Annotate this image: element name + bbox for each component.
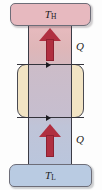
cold-reservoir: TL — [9, 164, 92, 187]
upper-arrow-shaft — [46, 39, 54, 61]
lower-heat-label: Q — [76, 134, 84, 145]
cold-reservoir-label: TL — [45, 170, 56, 182]
hot-reservoir: TH — [10, 3, 91, 26]
cold-reservoir-subscript: L — [51, 173, 56, 182]
flow-direction-triangle-top-icon — [46, 62, 51, 68]
hot-reservoir-label: TH — [45, 9, 57, 21]
hot-reservoir-subscript: H — [51, 12, 56, 21]
conduit-column-segment — [28, 64, 72, 118]
upper-heat-label: Q — [76, 41, 84, 52]
lower-heat-arrow-up-icon — [39, 124, 61, 157]
heat-flow-diagram: TH TL Q Q — [0, 0, 102, 190]
upper-heat-arrow-up-icon — [39, 28, 61, 61]
lower-arrow-shaft — [46, 135, 54, 157]
flow-direction-triangle-bottom-icon — [46, 115, 51, 121]
